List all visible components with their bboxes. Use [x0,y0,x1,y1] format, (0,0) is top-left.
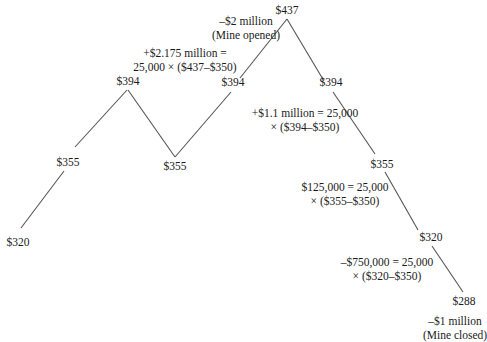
annotation-line: × ($394–$350) [252,120,359,134]
annotation-line: +$1.1 million = 25,000 [252,106,359,120]
annotation-line: × ($320–$350) [341,269,434,283]
annotation-line: $125,000 = 25,000 [302,180,389,194]
annotation-cf-437: +$2.175 million = 25,000 × ($437–$350) [133,46,236,74]
segment-320-288 [432,246,463,292]
annotation-line: –$2 million [212,14,280,28]
node-label-394-b: $394 [222,76,245,89]
node-label-320-start: $320 [7,236,30,249]
segment-394-355 [128,90,175,157]
node-label-394-c: $394 [320,76,343,89]
annotation-mine-opened: –$2 million (Mine opened) [212,14,280,42]
annotation-cf-320: –$750,000 = 25,000 × ($320–$350) [341,255,434,283]
node-label-394-a: $394 [117,75,140,88]
annotation-line: (Mine closed) [423,328,487,342]
node-label-320-end: $320 [420,231,443,244]
annotation-line: –$1 million [423,314,487,328]
node-label-355-a: $355 [57,156,80,169]
node-label-355-c: $355 [371,158,394,171]
segment-355-394b [175,92,231,157]
node-label-288: $288 [453,295,476,308]
annotation-cf-355: $125,000 = 25,000 × ($355–$350) [302,180,389,208]
annotation-line: (Mine opened) [212,28,280,42]
segment-355-394 [75,90,127,147]
segment-355-320 [385,172,418,230]
segment-320-355 [21,171,64,228]
node-label-355-b: $355 [164,160,187,173]
annotation-line: 25,000 × ($437–$350) [133,60,236,74]
annotation-line: × ($355–$350) [302,194,389,208]
annotation-mine-closed: –$1 million (Mine closed) [423,314,487,342]
annotation-cf-394: +$1.1 million = 25,000 × ($394–$350) [252,106,359,134]
segment-437-394 [287,19,324,81]
annotation-line: +$2.175 million = [133,46,236,60]
annotation-line: –$750,000 = 25,000 [341,255,434,269]
